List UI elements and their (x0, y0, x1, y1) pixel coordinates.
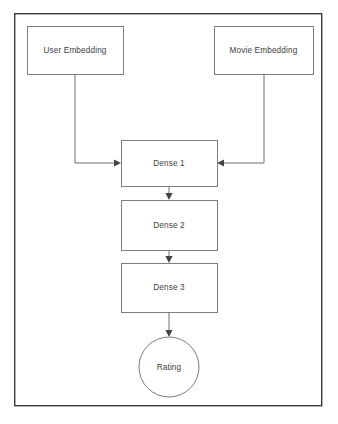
dense-3-label: Dense 3 (153, 283, 185, 292)
rating-label: Rating (157, 363, 182, 372)
dense-2-label: Dense 2 (153, 221, 185, 230)
diagram-canvas: User Embedding Movie Embedding Dense 1 D… (0, 0, 338, 424)
node-dense-3[interactable]: Dense 3 (122, 264, 218, 313)
user-embedding-label: User Embedding (43, 46, 106, 55)
movie-embedding-label: Movie Embedding (230, 46, 298, 55)
node-movie-embedding[interactable]: Movie Embedding (215, 27, 314, 75)
node-user-embedding[interactable]: User Embedding (28, 27, 124, 75)
node-dense-1[interactable]: Dense 1 (122, 141, 218, 187)
model-architecture-diagram: User Embedding Movie Embedding Dense 1 D… (0, 0, 338, 424)
dense-1-label: Dense 1 (153, 159, 185, 168)
node-dense-2[interactable]: Dense 2 (122, 201, 218, 251)
node-rating[interactable]: Rating (139, 337, 199, 397)
